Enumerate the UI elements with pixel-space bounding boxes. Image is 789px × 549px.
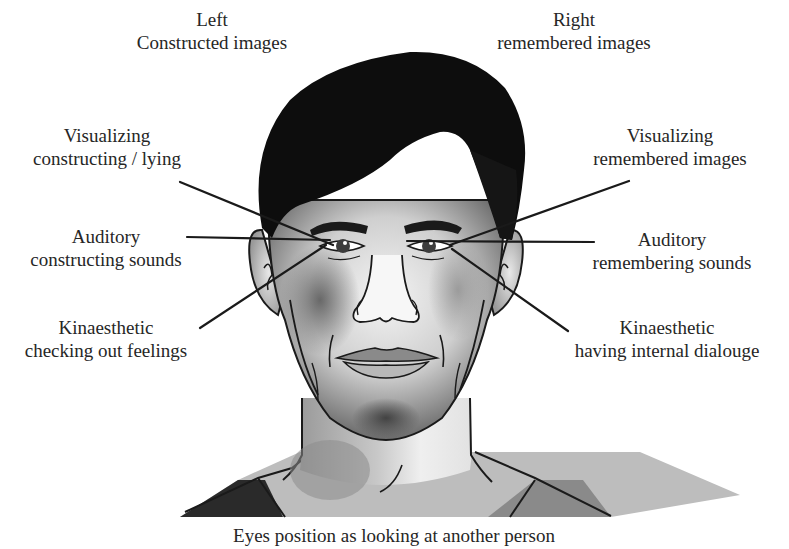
- label-auditory-constructing: Auditory constructing sounds: [30, 225, 181, 271]
- label-auditory-remembering: Auditory remembering sounds: [593, 228, 752, 274]
- label-line1: Visualizing: [33, 124, 181, 147]
- label-line2: constructing sounds: [30, 248, 181, 271]
- line-auditory-remembering: [407, 241, 594, 242]
- label-line1: Kinaesthetic: [25, 316, 188, 339]
- label-line1: Visualizing: [593, 124, 747, 147]
- face-illustration: [0, 0, 789, 549]
- label-line2: remembered images: [593, 147, 747, 170]
- heading-right-line2: remembered images: [497, 31, 651, 54]
- label-visual-remembered: Visualizing remembered images: [593, 124, 747, 170]
- label-line2: having internal dialouge: [575, 339, 760, 362]
- heading-right: Right remembered images: [497, 8, 651, 54]
- heading-left-line2: Constructed images: [137, 31, 287, 54]
- label-kinaesthetic-dialogue: Kinaesthetic having internal dialouge: [575, 316, 760, 362]
- label-line2: remembering sounds: [593, 251, 752, 274]
- label-line1: Kinaesthetic: [575, 316, 760, 339]
- eye-accessing-cues-diagram: Left Constructed images Right remembered…: [0, 0, 789, 549]
- caption: Eyes position as looking at another pers…: [233, 525, 555, 547]
- label-line1: Auditory: [593, 228, 752, 251]
- heading-left: Left Constructed images: [137, 8, 287, 54]
- heading-right-line1: Right: [497, 8, 651, 31]
- label-kinaesthetic-feelings: Kinaesthetic checking out feelings: [25, 316, 188, 362]
- heading-left-line1: Left: [137, 8, 287, 31]
- label-line2: constructing / lying: [33, 147, 181, 170]
- label-line1: Auditory: [30, 225, 181, 248]
- label-visual-constructing: Visualizing constructing / lying: [33, 124, 181, 170]
- label-line2: checking out feelings: [25, 339, 188, 362]
